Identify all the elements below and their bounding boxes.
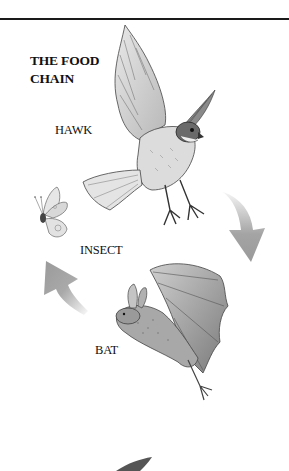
- curved-arrow-down-icon: [215, 190, 270, 265]
- curved-arrow-up-left-icon: [40, 255, 90, 315]
- bat-icon: [108, 258, 238, 408]
- partial-illustration-icon: [110, 455, 170, 471]
- hawk-icon: [80, 20, 230, 230]
- butterfly-icon: [25, 185, 75, 245]
